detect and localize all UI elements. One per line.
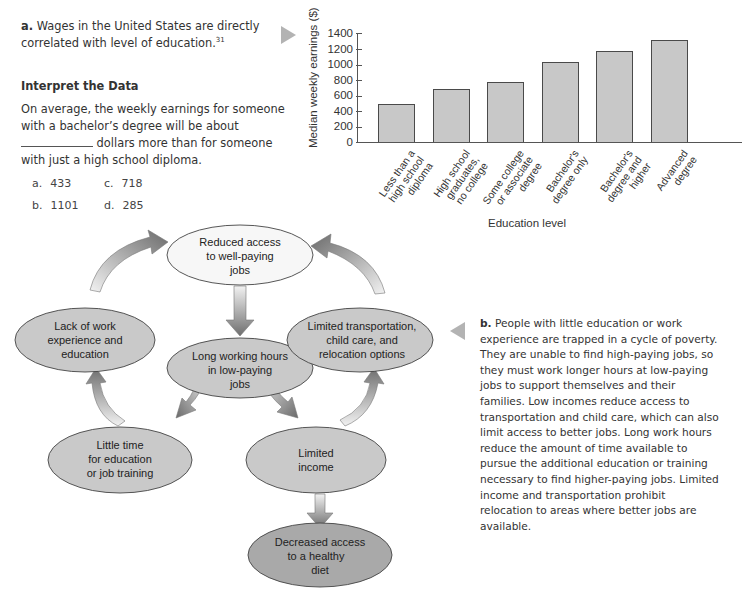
option-letter: d.	[104, 199, 114, 212]
pointer-left-icon	[450, 322, 465, 340]
y-tick-label: 1000	[305, 58, 362, 70]
panel-b-body: People with little education or work exp…	[480, 317, 719, 532]
node-text: relocation options	[319, 348, 406, 360]
y-tick-label: 1400	[305, 27, 362, 39]
question-text: On average, the weekly earnings for some…	[21, 101, 296, 169]
panel-b-label: b.	[480, 317, 492, 329]
arrow-left-to-top-icon	[90, 230, 168, 292]
arrow-income-to-transport-icon	[340, 368, 384, 426]
interpret-title: Interpret the Data	[21, 78, 296, 95]
y-tick-label: 800	[305, 74, 362, 86]
x-axis-line	[357, 142, 742, 143]
node-text: Decreased access	[275, 536, 366, 548]
node-text: for education	[88, 453, 152, 465]
node-decreased-diet: Decreased access to a healthy diet	[248, 523, 392, 587]
panel-a-label: a.	[21, 19, 33, 33]
node-text: Lack of work	[54, 320, 116, 332]
node-text: to well-paying	[206, 250, 273, 262]
y-tick-label: 200	[305, 120, 362, 132]
panel-b-paragraph: b. People with little education or work …	[480, 316, 720, 534]
bar	[542, 62, 579, 142]
x-tick-label: Bachelor'sdegree andhigher	[580, 148, 653, 232]
node-text: to a healthy	[288, 550, 345, 562]
option-letter: a.	[32, 177, 42, 190]
option-b: b.1101	[32, 197, 104, 214]
option-letter: c.	[104, 177, 114, 190]
x-tick-label: Bachelor'sdegree only	[526, 148, 590, 226]
arrow-littletime-to-lack-icon	[86, 368, 125, 426]
x-tick-label: Advanceddegree	[635, 148, 699, 226]
option-d: d.285	[104, 197, 184, 214]
bar	[487, 82, 524, 142]
option-letter: b.	[32, 199, 42, 212]
node-text: diet	[311, 564, 329, 576]
node-text: child care, and	[326, 334, 398, 346]
bar	[433, 89, 470, 142]
node-limited-transport: Limited transportation, child care, and …	[287, 308, 433, 372]
node-reduced-access: Reduced access to well-paying jobs	[167, 225, 313, 285]
footnote-ref: 31	[216, 36, 225, 44]
answer-options: a.433 c.718 b.1101 d.285	[32, 175, 296, 214]
node-text: Limited transportation,	[308, 320, 417, 332]
option-value: 285	[122, 199, 143, 212]
caption-text: Wages in the United States are directly …	[21, 19, 260, 50]
panel-a-caption: a. Wages in the United States are direct…	[21, 18, 296, 52]
node-text: Reduced access	[199, 236, 281, 248]
node-text: education	[61, 348, 109, 360]
y-tick-label: 0	[305, 136, 362, 148]
y-tick-label: 400	[305, 105, 362, 117]
arrow-right-to-top-icon	[311, 234, 385, 294]
question-part-1: On average, the weekly earnings for some…	[21, 102, 285, 133]
node-text: Long working hours	[192, 350, 289, 362]
poverty-cycle-diagram: Reduced access to well-paying jobs Lack …	[0, 220, 460, 591]
node-text: income	[298, 461, 333, 473]
option-c: c.718	[104, 175, 184, 192]
panel-b-text: b. People with little education or work …	[480, 316, 720, 534]
node-text: experience and	[47, 334, 122, 346]
node-lack-of-work: Lack of work experience and education	[15, 308, 155, 372]
option-a: a.433	[32, 175, 104, 192]
earnings-bar-chart: Median weekly earnings ($) 1400120010008…	[305, 20, 725, 235]
node-text: jobs	[229, 378, 251, 390]
node-text: in low-paying	[208, 364, 272, 376]
node-text: Limited	[298, 447, 333, 459]
pointer-right-icon	[281, 26, 296, 44]
arrow-top-to-center-icon	[226, 286, 254, 336]
bar	[651, 40, 688, 142]
option-value: 718	[122, 177, 143, 190]
bar	[596, 51, 633, 142]
panel-a-text: a. Wages in the United States are direct…	[21, 18, 296, 214]
node-limited-income: Limited income	[246, 427, 386, 493]
bar	[378, 104, 415, 142]
option-value: 1101	[50, 199, 78, 212]
option-value: 433	[50, 177, 71, 190]
y-tick-label: 1200	[305, 43, 362, 55]
answer-blank	[21, 136, 93, 147]
x-axis-label: Education level	[488, 217, 566, 229]
node-little-time: Little time for education or job trainin…	[48, 427, 192, 493]
node-text: or job training	[87, 467, 154, 479]
y-tick-label: 600	[305, 89, 362, 101]
node-text: jobs	[229, 264, 251, 276]
node-text: Little time	[96, 439, 143, 451]
